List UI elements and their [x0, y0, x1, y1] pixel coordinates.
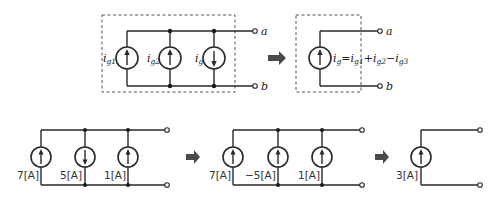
node-dot	[212, 29, 216, 33]
bottom-circuit-1: 7[A] 5[A] 1[A]	[17, 128, 169, 188]
node-dot	[83, 128, 87, 132]
circuit-diagram: a b ig1 ig2 ig a b ig=ig1+ig2−ig3	[0, 0, 498, 197]
terminal-label-b: b	[386, 80, 393, 93]
label-3A: 3[A]	[396, 169, 418, 181]
bottom-circuit-2: 7[A] −5[A] 1[A]	[209, 128, 364, 188]
label-ig2: ig2	[147, 52, 160, 66]
node-dot	[126, 183, 130, 187]
label-ig: ig	[195, 52, 204, 66]
label-5A: 5[A]	[60, 169, 82, 181]
current-source-3A	[411, 147, 431, 167]
node-dot	[168, 84, 172, 88]
right-arrow-icon	[375, 150, 389, 164]
terminal-a	[378, 29, 383, 34]
right-arrow-icon	[268, 51, 286, 65]
terminal	[478, 128, 483, 133]
right-arrow-icon	[186, 150, 200, 164]
current-source-minus5A	[268, 147, 288, 167]
terminal-b	[378, 84, 383, 89]
current-source-5A	[75, 147, 95, 167]
current-source-ig1	[116, 47, 138, 69]
node-dot	[83, 183, 87, 187]
terminal	[478, 183, 483, 188]
label-1A: 1[A]	[298, 169, 320, 181]
terminal-a	[253, 29, 258, 34]
terminal	[165, 128, 170, 133]
terminal	[360, 128, 365, 133]
equation-ig: ig=ig1+ig2−ig3	[333, 52, 409, 66]
terminal-label-b: b	[261, 80, 268, 93]
label-7A: 7[A]	[209, 169, 231, 181]
node-dot	[276, 183, 280, 187]
bottom-circuit-3: 3[A]	[396, 128, 482, 188]
node-dot	[276, 128, 280, 132]
top-right-circuit: a b ig=ig1+ig2−ig3	[296, 15, 409, 93]
node-dot	[320, 183, 324, 187]
current-source-7A	[31, 147, 51, 167]
node-dot	[126, 128, 130, 132]
terminal	[165, 183, 170, 188]
top-left-circuit: a b ig1 ig2 ig	[102, 15, 268, 93]
current-source-ig	[203, 47, 225, 69]
node-dot	[212, 84, 216, 88]
terminal-b	[253, 84, 258, 89]
node-dot	[168, 29, 172, 33]
label-ig1: ig1	[103, 52, 116, 66]
label-minus5A: −5[A]	[245, 169, 276, 181]
current-source-ig2	[159, 47, 181, 69]
current-source-1A	[118, 147, 138, 167]
label-1A: 1[A]	[104, 169, 126, 181]
current-source-1A	[312, 147, 332, 167]
terminal-label-a: a	[386, 25, 393, 38]
terminal-label-a: a	[261, 25, 268, 38]
label-7A: 7[A]	[17, 169, 39, 181]
current-source-ig-equivalent	[309, 47, 331, 69]
current-source-7A	[223, 147, 243, 167]
terminal	[360, 183, 365, 188]
node-dot	[320, 128, 324, 132]
